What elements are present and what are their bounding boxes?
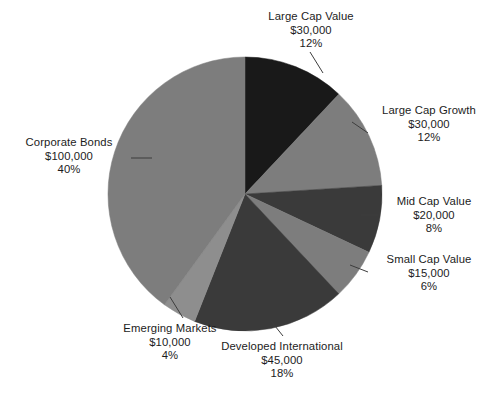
- slice-label-emerging-markets: Emerging Markets $10,000 4%: [107, 322, 233, 363]
- slice-label-value: $15,000: [371, 267, 487, 281]
- slice-label-percent: 40%: [8, 163, 130, 177]
- slice-label-value: $20,000: [381, 209, 487, 223]
- slice-label-name: Small Cap Value: [371, 253, 487, 267]
- slice-label-large-cap-growth: Large Cap Growth $30,000 12%: [371, 104, 487, 145]
- pie-chart-figure: Large Cap Value $30,000 12% Large Cap Gr…: [0, 0, 489, 401]
- slice-label-corporate-bonds: Corporate Bonds $100,000 40%: [8, 136, 130, 177]
- slice-label-percent: 12%: [247, 37, 375, 51]
- slice-label-name: Mid Cap Value: [381, 195, 487, 209]
- slice-label-name: Large Cap Growth: [371, 104, 487, 118]
- slice-label-percent: 12%: [371, 131, 487, 145]
- slice-label-name: Emerging Markets: [107, 322, 233, 336]
- slice-label-large-cap-value: Large Cap Value $30,000 12%: [247, 10, 375, 51]
- slice-label-value: $30,000: [247, 24, 375, 38]
- slice-label-percent: 18%: [206, 367, 358, 381]
- slice-label-value: $10,000: [107, 336, 233, 350]
- slice-label-percent: 6%: [371, 280, 487, 294]
- slice-label-name: Large Cap Value: [247, 10, 375, 24]
- leader-line: [310, 52, 323, 73]
- slice-label-small-cap-value: Small Cap Value $15,000 6%: [371, 253, 487, 294]
- slice-label-percent: 8%: [381, 222, 487, 236]
- slice-label-name: Corporate Bonds: [8, 136, 130, 150]
- slice-label-value: $30,000: [371, 118, 487, 132]
- slice-label-mid-cap-value: Mid Cap Value $20,000 8%: [381, 195, 487, 236]
- slice-label-percent: 4%: [107, 349, 233, 363]
- pie-slice-group: [108, 57, 382, 331]
- slice-label-value: $100,000: [8, 150, 130, 164]
